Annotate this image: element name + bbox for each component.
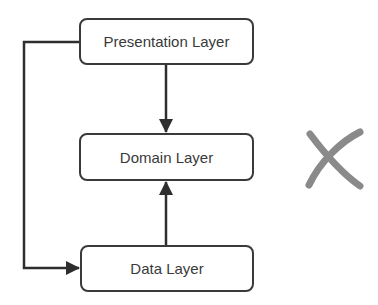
data-layer-label: Data Layer xyxy=(130,260,203,277)
presentation-layer-label: Presentation Layer xyxy=(104,33,230,50)
x-mark-icon xyxy=(309,132,360,186)
domain-layer-box: Domain Layer xyxy=(79,133,254,181)
presentation-layer-box: Presentation Layer xyxy=(79,18,254,65)
data-layer-box: Data Layer xyxy=(80,245,254,292)
domain-layer-label: Domain Layer xyxy=(120,149,213,166)
arrow-presentation-to-data xyxy=(24,42,79,268)
